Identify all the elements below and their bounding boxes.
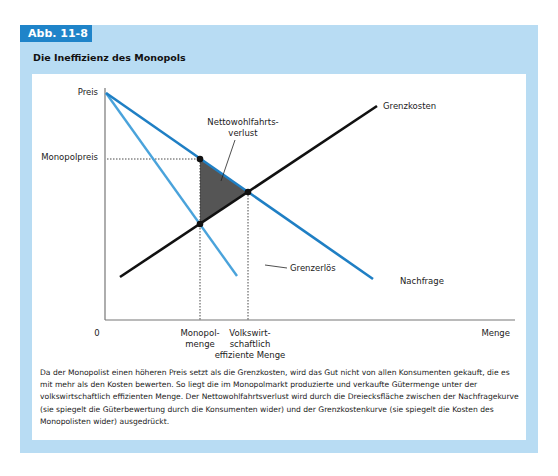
monopoly-point bbox=[197, 156, 204, 163]
x-axis-label: Menge bbox=[481, 328, 510, 338]
monopoly-quantity-label-1: Monopol- bbox=[180, 328, 219, 338]
efficient-quantity-label-3: effiziente Menge bbox=[215, 350, 286, 360]
marginal-cost-label: Grenzkosten bbox=[383, 101, 436, 111]
demand-label: Nachfrage bbox=[400, 276, 444, 286]
monopoly-quantity-label-2: menge bbox=[185, 339, 215, 349]
deadweight-leader-line bbox=[221, 140, 235, 181]
marginal-revenue-leader-line bbox=[265, 265, 287, 268]
y-axis-label: Preis bbox=[78, 87, 99, 97]
deadweight-loss-area bbox=[200, 159, 248, 224]
marginal-revenue-label: Grenzerlös bbox=[290, 263, 336, 273]
efficient-quantity-label-2: schaftlich bbox=[230, 339, 271, 349]
deadweight-loss-label-2: verlust bbox=[228, 128, 258, 138]
monopoly-price-label: Monopolpreis bbox=[41, 152, 98, 162]
efficient-point bbox=[245, 189, 252, 196]
figure-caption: Da der Monopolist einen höheren Preis se… bbox=[40, 367, 520, 428]
mc-at-monopoly-quantity-point bbox=[197, 221, 204, 228]
efficient-quantity-label-1: Volkswirt- bbox=[229, 328, 270, 338]
deadweight-loss-label-1: Nettowohlfahrts- bbox=[207, 117, 278, 127]
origin-label: 0 bbox=[94, 328, 99, 338]
